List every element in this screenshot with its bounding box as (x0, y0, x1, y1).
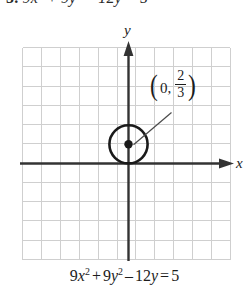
close-paren: ) (188, 73, 196, 96)
center-point-marker (124, 140, 132, 148)
clipped-top-equation-text: 5. 9x2 + 9y2 – 12y = 5 (6, 0, 148, 7)
top-eq-term-3: 12y (98, 0, 122, 6)
point-comma: , (168, 81, 172, 96)
top-eq-minus: – (82, 0, 99, 6)
coordinate-plane-svg (0, 13, 249, 263)
eq-coef-y2: 9 (103, 267, 111, 284)
center-point-label: ( 0 , 2 3 ) (149, 69, 197, 101)
eq-rhs: 5 (171, 267, 179, 284)
eq-coef-x2: 9 (70, 267, 78, 284)
top-eq-rhs: 5 (140, 0, 148, 6)
top-eq-equals: = (122, 0, 140, 6)
top-eq-term-1: 9x (23, 0, 39, 6)
open-paren: ( (150, 73, 158, 96)
grid-lines (23, 48, 231, 260)
top-eq-plus: + (43, 0, 61, 6)
y-axis-label: y (124, 23, 131, 38)
eq-var-y: y (111, 267, 118, 284)
eq-minus: – (125, 267, 133, 284)
eq-equals: = (160, 267, 169, 284)
fraction-denominator: 3 (175, 86, 186, 100)
y-axis (124, 41, 134, 261)
equation-caption: 9x2+9y2–12y=5 (0, 266, 249, 285)
eq-coef-y: 12 (135, 267, 151, 284)
circle-graph-figure: y x ( 0 , 2 3 ) (0, 13, 249, 263)
clipped-top-equation: 5. 9x2 + 9y2 – 12y = 5 (0, 0, 249, 13)
top-eq-term-2: 9y (61, 0, 77, 6)
eq-var-y-linear: y (151, 267, 158, 284)
x-axis-label: x (236, 156, 243, 171)
eq-exp-y: 2 (118, 266, 123, 277)
eq-exp-x: 2 (85, 266, 90, 277)
problem-number: 5. (6, 0, 18, 6)
eq-plus: + (92, 267, 101, 284)
eq-var-x: x (78, 267, 85, 284)
point-y-fraction: 2 3 (175, 69, 186, 101)
fraction-numerator: 2 (175, 69, 186, 83)
point-x-value: 0 (160, 81, 168, 96)
